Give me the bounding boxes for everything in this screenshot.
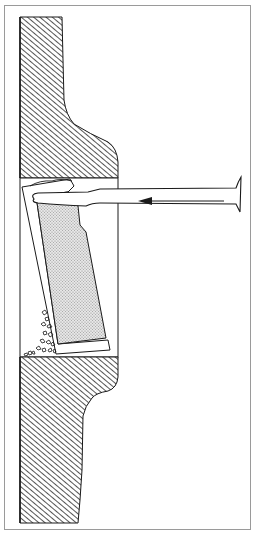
upper-wall-section [20,17,118,178]
lower-wall-section [20,357,118,523]
cross-section-diagram [0,0,264,536]
